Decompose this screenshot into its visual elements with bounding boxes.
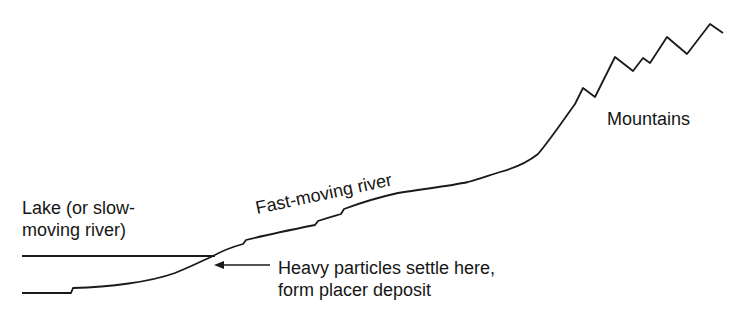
deposit-label-line2: form placer deposit [278,279,495,301]
lake-label-line2: moving river) [22,219,135,241]
arrow-left-icon [214,261,270,269]
deposit-label-line1: Heavy particles settle here, [278,257,495,279]
lake-label: Lake (or slow- moving river) [22,197,135,241]
lake-label-line1: Lake (or slow- [22,197,135,219]
deposit-label: Heavy particles settle here, form placer… [278,257,495,301]
terrain-profile-line [22,24,723,293]
mountains-label: Mountains [607,108,690,130]
